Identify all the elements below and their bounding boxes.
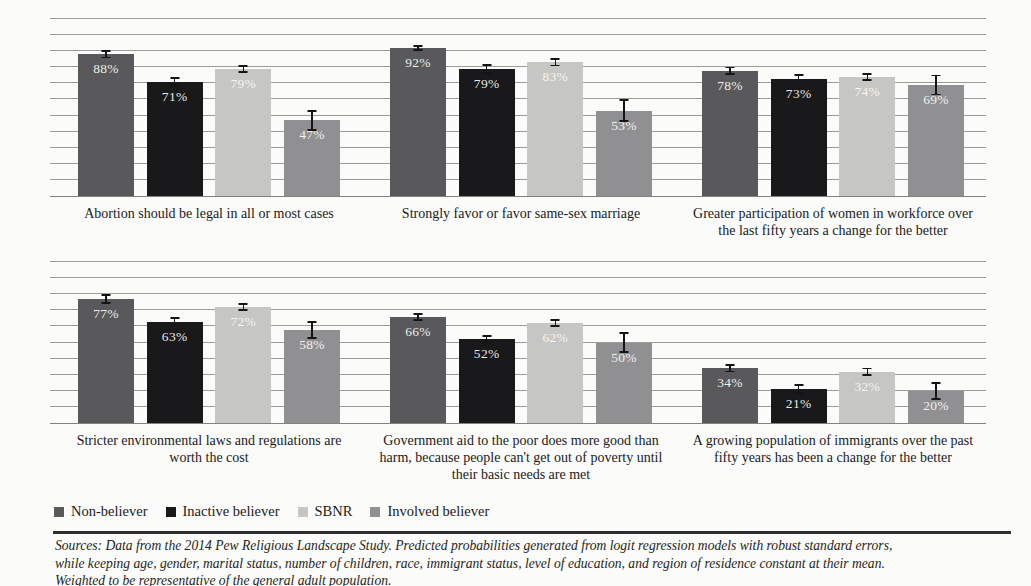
error-bar (623, 332, 625, 353)
bar-value-label: 88% (78, 61, 134, 77)
bar-sbnr: 72% (215, 307, 271, 423)
bar-slot: 69% (908, 19, 964, 196)
bar-slot: 47% (284, 19, 340, 196)
bar-slot: 58% (284, 262, 340, 423)
bar-value-label: 79% (459, 76, 515, 92)
bar-slot: 21% (771, 262, 827, 423)
bar-sbnr: 62% (527, 323, 583, 423)
bar-slot: 50% (596, 262, 652, 423)
bar-non_believer: 92% (390, 48, 446, 196)
bar-slot: 66% (390, 262, 446, 423)
bar-non_believer: 66% (390, 317, 446, 423)
bar-slot: 34% (702, 262, 758, 423)
bar-sbnr: 32% (839, 372, 895, 423)
group-label-0-1: Strongly favor or favor same-sex marriag… (346, 205, 696, 222)
group-label-line: worth the cost (34, 449, 384, 466)
error-bar (798, 384, 800, 394)
group-label-line: harm, because people can't get out of po… (346, 449, 696, 466)
figure-page: 88%71%79%47%Abortion should be legal in … (0, 0, 1031, 586)
legend-label: Non-believer (71, 503, 148, 520)
bar-slot: 52% (459, 262, 515, 423)
bar-slot: 79% (215, 19, 271, 196)
bar-value-label: 78% (702, 78, 758, 94)
bar-non_believer: 78% (702, 71, 758, 197)
error-bar (311, 321, 313, 339)
group-label-line: A growing population of immigrants over … (658, 432, 1008, 449)
bar-value-label: 62% (527, 330, 583, 346)
legend-marker-non-believer (54, 507, 64, 517)
bar-value-label: 58% (284, 337, 340, 353)
bar-value-label: 52% (459, 346, 515, 362)
group-label-line: Abortion should be legal in all or most … (34, 205, 384, 222)
bar-value-label: 83% (527, 69, 583, 85)
bar-involved_believer: 58% (284, 330, 340, 423)
group-label-0-0: Abortion should be legal in all or most … (34, 205, 384, 222)
error-bar (623, 99, 625, 122)
bar-value-label: 72% (215, 314, 271, 330)
bar-value-label: 66% (390, 324, 446, 340)
group-label-line: fifty years has been a change for the be… (658, 449, 1008, 466)
bar-slot: 63% (147, 262, 203, 423)
legend-label: Inactive believer (183, 503, 280, 520)
legend-label: SBNR (315, 503, 353, 520)
bar-slot: 32% (839, 262, 895, 423)
group-label-1-1: Government aid to the poor does more goo… (346, 432, 696, 483)
bar-group-0-0: 88%71%79%47% (78, 19, 340, 196)
bar-inactive_believer: 79% (459, 69, 515, 196)
bar-group-1-0: 77%63%72%58% (78, 262, 340, 423)
bar-sbnr: 74% (839, 77, 895, 196)
bar-value-label: 20% (908, 398, 964, 414)
legend-item-sbnr: SBNR (298, 503, 353, 520)
bar-inactive_believer: 63% (147, 322, 203, 423)
error-bar (555, 58, 557, 66)
group-label-line: their basic needs are met (346, 466, 696, 483)
bar-inactive_believer: 52% (459, 339, 515, 423)
error-bar (555, 319, 557, 327)
error-bar (935, 75, 937, 96)
error-bar (105, 294, 107, 304)
bar-inactive_believer: 73% (771, 79, 827, 196)
error-bar (729, 67, 731, 75)
error-bar (174, 317, 176, 327)
separator-rule (53, 531, 1011, 534)
bar-slot: 62% (527, 262, 583, 423)
group-label-0-2: Greater participation of women in workfo… (658, 205, 1008, 239)
bar-group-1-2: 34%21%32%20% (702, 262, 964, 423)
bar-slot: 88% (78, 19, 134, 196)
group-label-line: Greater participation of women in workfo… (658, 205, 1008, 222)
bar-involved_believer: 53% (596, 111, 652, 196)
bar-inactive_believer: 71% (147, 82, 203, 196)
bar-group-1-1: 66%52%62%50% (390, 262, 652, 423)
group-label-1-0: Stricter environmental laws and regulati… (34, 432, 384, 466)
bar-value-label: 79% (215, 76, 271, 92)
error-bar (798, 74, 800, 84)
legend-item-non-believer: Non-believer (54, 503, 148, 520)
error-bar (243, 65, 245, 73)
source-note-line-2: while keeping age, gender, marital statu… (55, 555, 1015, 573)
error-bar (867, 73, 869, 81)
bar-group-0-1: 92%79%83%53% (390, 19, 652, 196)
bar-sbnr: 83% (527, 62, 583, 196)
error-bar (417, 45, 419, 51)
group-label-line: Stricter environmental laws and regulati… (34, 432, 384, 449)
chart-top-row: 88%71%79%47%Abortion should be legal in … (50, 19, 986, 196)
group-label-line: the last fifty years a change for the be… (658, 222, 1008, 239)
x-axis-line (50, 423, 986, 424)
bar-slot: 92% (390, 19, 446, 196)
error-bar (417, 313, 419, 321)
bar-value-label: 32% (839, 379, 895, 395)
bar-slot: 72% (215, 262, 271, 423)
bar-group-0-2: 78%73%74%69% (702, 19, 964, 196)
legend-marker-inactive-believer (166, 507, 176, 517)
source-note-line-1: Sources: Data from the 2014 Pew Religiou… (55, 537, 1015, 555)
bar-slot: 20% (908, 262, 964, 423)
error-bar (174, 77, 176, 87)
error-bar (867, 368, 869, 376)
legend-item-inactive-believer: Inactive believer (166, 503, 280, 520)
bar-involved_believer: 47% (284, 120, 340, 196)
bar-value-label: 63% (147, 329, 203, 345)
group-label-1-2: A growing population of immigrants over … (658, 432, 1008, 466)
source-note: Sources: Data from the 2014 Pew Religiou… (55, 537, 1015, 586)
legend-marker-involved-believer (370, 507, 380, 517)
legend-item-involved-believer: Involved believer (370, 503, 489, 520)
